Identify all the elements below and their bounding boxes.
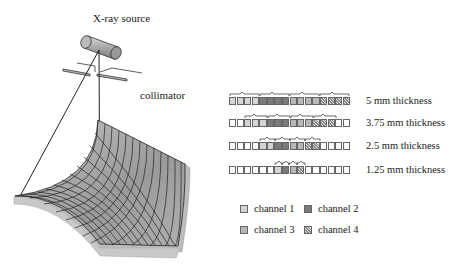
detector-cell-channel-2 (282, 119, 289, 127)
detector-cell-empty (229, 119, 236, 127)
channel-4-swatch-icon (304, 226, 312, 234)
legend-label: channel 2 (318, 203, 359, 214)
detector-cell-channel-4 (335, 97, 342, 105)
detector-cell-channel-2 (282, 142, 289, 150)
detector-array-icon (14, 120, 190, 258)
detector-row-1-25mm (229, 166, 350, 175)
legend-label: channel 1 (254, 203, 295, 214)
legend-label: channel 4 (318, 224, 359, 235)
detector-cell-empty (244, 166, 251, 174)
thickness-label-2-5mm: 2.5 mm thickness (366, 140, 440, 151)
detector-cell-channel-1 (237, 97, 244, 105)
detector-cell-channel-3 (290, 119, 297, 127)
detector-row-5mm (229, 97, 350, 106)
detector-cell-channel-4 (312, 119, 319, 127)
channel-2-swatch-icon (304, 205, 312, 213)
detector-cell-empty (320, 166, 327, 174)
detector-cell-channel-4 (328, 119, 335, 127)
ct-geometry-illustration (0, 0, 230, 266)
detector-cell-empty (343, 166, 350, 174)
detector-cell-channel-2 (274, 97, 281, 105)
detector-cell-empty (320, 142, 327, 150)
legend-label: channel 3 (254, 224, 295, 235)
detector-cell-channel-3 (297, 97, 304, 105)
detector-cell-empty (328, 166, 335, 174)
detector-cell-channel-1 (244, 97, 251, 105)
detector-cell-empty (335, 166, 342, 174)
detector-cell-channel-1 (259, 142, 266, 150)
legend-channel-1: channel 1 (240, 203, 295, 214)
thickness-label-1-25mm: 1.25 mm thickness (366, 164, 445, 175)
detector-cell-empty (343, 142, 350, 150)
detector-cell-channel-2 (282, 166, 289, 174)
detector-cell-empty (335, 142, 342, 150)
legend-channel-4: channel 4 (304, 224, 359, 235)
detector-cell-channel-2 (282, 97, 289, 105)
detector-cell-channel-4 (305, 142, 312, 150)
channel-3-swatch-icon (240, 226, 248, 234)
detector-cell-channel-3 (290, 142, 297, 150)
detector-cell-channel-1 (252, 119, 259, 127)
detector-cell-channel-2 (267, 119, 274, 127)
xray-source-label: X-ray source (93, 12, 150, 24)
detector-cell-empty (312, 166, 319, 174)
detector-cell-channel-4 (297, 166, 304, 174)
detector-cell-channel-3 (297, 119, 304, 127)
detector-cell-channel-3 (297, 142, 304, 150)
detector-cell-empty (252, 142, 259, 150)
channel-1-swatch-icon (240, 205, 248, 213)
collimator-label: collimator (140, 89, 185, 101)
detector-cell-channel-1 (244, 119, 251, 127)
detector-cell-empty (237, 119, 244, 127)
detector-cell-empty (343, 119, 350, 127)
detector-cell-channel-4 (328, 97, 335, 105)
detector-cell-empty (259, 166, 266, 174)
detector-cell-channel-1 (252, 97, 259, 105)
detector-cell-channel-2 (274, 119, 281, 127)
detector-cell-channel-1 (267, 142, 274, 150)
legend-channel-3: channel 3 (240, 224, 295, 235)
detector-row-3-75mm (229, 119, 350, 128)
detector-cell-empty (328, 142, 335, 150)
detector-cell-channel-3 (312, 97, 319, 105)
detector-cell-channel-4 (343, 97, 350, 105)
detector-cell-channel-3 (290, 166, 297, 174)
thickness-label-3-75mm: 3.75 mm thickness (366, 117, 445, 128)
detector-cell-empty (305, 166, 312, 174)
detector-row-2-5mm (229, 142, 350, 151)
xray-tube-icon (79, 34, 123, 61)
detector-cell-empty (335, 119, 342, 127)
detector-cell-channel-4 (320, 97, 327, 105)
detector-cell-channel-1 (259, 119, 266, 127)
detector-cell-channel-3 (305, 119, 312, 127)
detector-cell-channel-1 (229, 97, 236, 105)
detector-cell-channel-4 (320, 119, 327, 127)
detector-cell-empty (252, 166, 259, 174)
detector-cell-channel-1 (274, 166, 281, 174)
detector-cell-channel-3 (305, 97, 312, 105)
detector-cell-empty (237, 166, 244, 174)
thickness-label-5mm: 5 mm thickness (366, 95, 432, 106)
detector-cell-channel-3 (290, 97, 297, 105)
detector-cell-channel-2 (259, 97, 266, 105)
detector-cell-empty (244, 142, 251, 150)
detector-cell-channel-2 (267, 97, 274, 105)
collimator-plates (63, 63, 142, 81)
detector-cell-empty (237, 142, 244, 150)
detector-cell-empty (229, 166, 236, 174)
detector-cell-channel-2 (274, 142, 281, 150)
detector-cell-channel-4 (312, 142, 319, 150)
legend-channel-2: channel 2 (304, 203, 359, 214)
detector-cell-empty (267, 166, 274, 174)
detector-cell-empty (229, 142, 236, 150)
